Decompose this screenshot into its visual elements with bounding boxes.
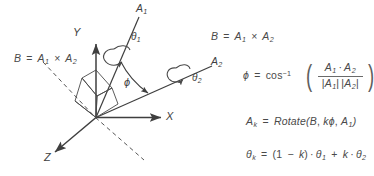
equation-phi-arccos: ϕ = cos−1 ( A1·A2 |A1||A2| ) (243, 62, 374, 91)
label-theta2: θ2 (192, 72, 202, 84)
fraction-numerator: A1·A2 (318, 62, 363, 76)
equation-rotate: Ak = Rotate(B, kϕ, A1) (246, 115, 356, 129)
figure-canvas: Y X Z A1 A2 θ1 θ2 ϕ B = A1 × A2 B = A1 ×… (0, 0, 374, 176)
label-dashed-b-axis: B = A1 × A2 (14, 52, 77, 66)
equation-theta-k-interp: θk = (1 − k)·θ1 + k·θ2 (246, 148, 366, 162)
theta2-rotation-arc (167, 65, 190, 82)
axis-z (55, 118, 96, 153)
label-phi: ϕ (124, 76, 130, 88)
label-axis-x: X (166, 110, 173, 122)
label-axis-y: Y (73, 26, 80, 38)
label-theta1: θ1 (131, 31, 141, 43)
label-vector-a1: A1 (136, 2, 147, 16)
fraction: A1·A2 |A1||A2| (318, 62, 363, 91)
label-axis-z: Z (44, 151, 51, 163)
label-vector-a2: A2 (211, 55, 222, 69)
fraction-denominator: |A1||A2| (318, 76, 363, 91)
equation-cross-product: B = A1 × A2 (211, 30, 274, 44)
